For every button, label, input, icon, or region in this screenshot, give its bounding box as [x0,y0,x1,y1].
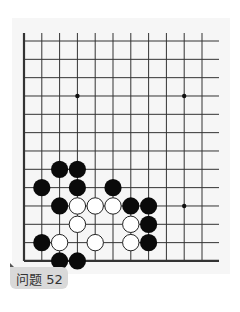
white-stone[interactable] [123,216,139,232]
white-stone[interactable] [123,234,139,250]
black-stone[interactable] [69,179,86,196]
black-stone[interactable] [104,179,121,196]
black-stone[interactable] [51,161,68,178]
white-stone[interactable] [87,198,103,214]
black-stone[interactable] [69,161,86,178]
black-stone[interactable] [33,179,50,196]
problem-label: 问题 52 [10,267,68,289]
black-stone[interactable] [51,197,68,214]
white-stone[interactable] [105,198,121,214]
go-board[interactable] [0,0,240,312]
white-stone[interactable] [87,234,103,250]
white-stone[interactable] [69,216,85,232]
black-stone[interactable] [140,234,157,251]
white-stone[interactable] [51,234,67,250]
white-stone[interactable] [69,198,85,214]
problem-label-text: 问题 52 [16,269,63,288]
black-stone[interactable] [140,197,157,214]
black-stone[interactable] [122,197,139,214]
star-point [75,94,79,98]
star-point [182,204,186,208]
black-stone[interactable] [33,234,50,251]
star-point [182,94,186,98]
black-stone[interactable] [69,252,86,269]
black-stone[interactable] [140,216,157,233]
